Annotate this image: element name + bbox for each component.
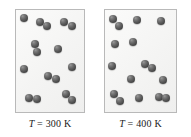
atom-sphere — [68, 22, 76, 30]
atom-sphere — [135, 94, 143, 102]
atom-sphere — [148, 64, 156, 72]
equals-glyph-right: = — [128, 118, 134, 129]
atom-sphere — [20, 65, 28, 73]
atom-sphere — [44, 72, 52, 80]
atom-sphere — [68, 96, 76, 104]
temperature-unit-left: K — [64, 118, 71, 129]
atom-sphere — [157, 17, 165, 25]
atom-sphere — [159, 76, 167, 84]
atom-sphere — [52, 75, 60, 83]
atom-sphere — [162, 94, 170, 102]
atom-sphere — [60, 18, 68, 26]
atom-sphere — [111, 40, 119, 48]
atom-sphere — [43, 22, 51, 30]
atom-sphere — [31, 40, 39, 48]
atom-sphere — [25, 94, 33, 102]
atom-sphere — [54, 45, 62, 53]
atom-sphere — [116, 97, 124, 105]
gas-container-left — [15, 9, 85, 113]
atom-sphere — [108, 62, 116, 70]
atom-sphere — [129, 38, 137, 46]
atom-sphere — [20, 14, 28, 22]
atom-sphere — [33, 48, 41, 56]
atom-sphere — [133, 16, 141, 24]
temperature-value-left: 300 — [46, 118, 62, 129]
temperature-value-right: 400 — [136, 118, 152, 129]
atom-sphere — [115, 22, 123, 30]
atom-sphere — [127, 75, 135, 83]
temperature-label-left: T = 300 K — [15, 118, 85, 129]
atom-sphere — [33, 95, 41, 103]
equals-glyph-left: = — [37, 118, 43, 129]
gas-container-right — [104, 9, 177, 113]
gas-molecules-figure: T = 300 K T = 400 K — [0, 0, 191, 137]
temperature-label-right: T = 400 K — [104, 118, 177, 129]
atom-sphere — [68, 63, 76, 71]
temperature-unit-right: K — [154, 118, 161, 129]
